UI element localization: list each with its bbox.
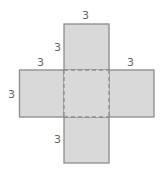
face-left (20, 70, 65, 117)
label-right-top: 3 (127, 56, 134, 69)
face-top (64, 24, 109, 70)
face-right (109, 70, 154, 117)
label-left-height: 3 (8, 88, 15, 101)
face-bottom (64, 117, 109, 163)
label-top-width: 3 (82, 9, 89, 22)
label-left-top: 3 (37, 56, 44, 69)
label-bottom-height: 3 (54, 133, 61, 146)
face-center (64, 70, 109, 117)
net-diagram: 3 3 3 3 3 3 (0, 0, 162, 171)
label-top-height: 3 (54, 41, 61, 54)
